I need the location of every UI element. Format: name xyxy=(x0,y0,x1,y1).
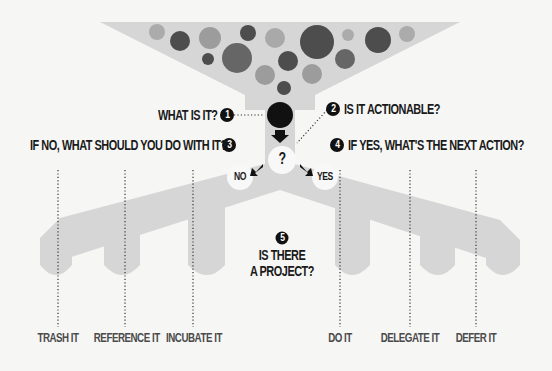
step-5-label-line2: A PROJECT? xyxy=(243,263,321,279)
gtd-workflow-diagram xyxy=(0,0,552,371)
outcome-defer-it: DEFER IT xyxy=(453,331,500,345)
yes-label: YES xyxy=(316,170,335,182)
outcome-trash-it: TRASH IT xyxy=(35,331,82,345)
step-5-label-line1: IS THERE xyxy=(243,247,321,263)
step-3-number: 3 xyxy=(226,138,233,150)
outcome-reference-it: REFERENCE IT xyxy=(94,331,156,345)
no-label: NO xyxy=(231,170,250,182)
step-4-label: IF YES, WHAT'S THE NEXT ACTION? xyxy=(348,137,524,153)
decision-symbol: ? xyxy=(274,150,290,168)
step-1-number: 1 xyxy=(224,108,231,120)
step-4-number: 4 xyxy=(334,138,341,150)
outcome-delegate-it: DELEGATE IT xyxy=(380,331,439,345)
step-2-number: 2 xyxy=(330,102,337,114)
outcome-incubate-it: INCUBATE IT xyxy=(166,331,222,345)
outcome-do-it: DO IT xyxy=(323,331,357,345)
step-3-label: IF NO, WHAT SHOULD YOU DO WITH IT? xyxy=(30,137,227,153)
item-node xyxy=(267,102,293,128)
step-2-label: IS IT ACTIONABLE? xyxy=(344,101,440,117)
step-5-number: 5 xyxy=(279,231,286,243)
step-1-label: WHAT IS IT? xyxy=(158,107,218,123)
